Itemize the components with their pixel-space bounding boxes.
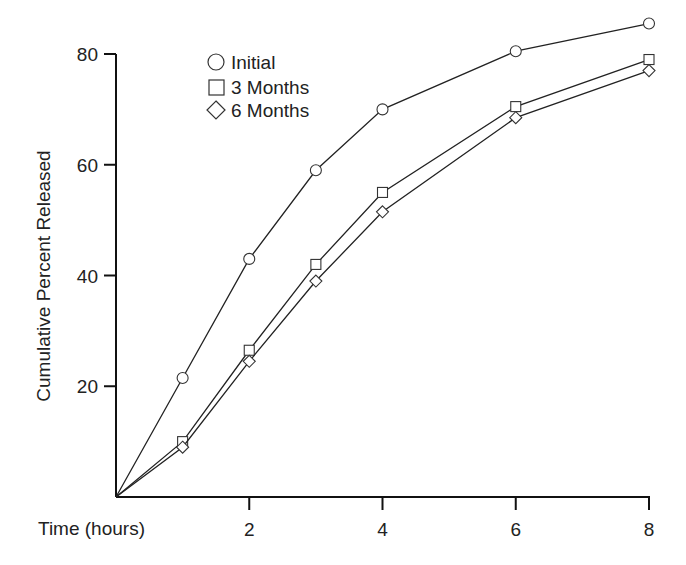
series-line: [116, 71, 649, 497]
x-axis-title: Time (hours): [38, 518, 145, 539]
legend-item-initial: Initial: [208, 52, 275, 73]
circle-marker-icon: [177, 372, 188, 383]
release-chart: 20406080 2468 Time (hours) Cumulative Pe…: [0, 0, 686, 565]
circle-marker-icon: [244, 253, 255, 264]
circle-marker-icon: [208, 54, 224, 70]
legend-label: Initial: [231, 52, 275, 73]
square-marker-icon: [511, 102, 521, 112]
diamond-marker-icon: [643, 65, 655, 77]
series-layer: [116, 18, 655, 497]
square-marker-icon: [244, 345, 254, 355]
y-ticks: 20406080: [77, 44, 116, 397]
diamond-marker-icon: [207, 101, 225, 119]
series-initial: [116, 18, 655, 497]
x-ticks: 2468: [244, 497, 654, 540]
circle-marker-icon: [644, 18, 655, 29]
legend-label: 6 Months: [231, 100, 309, 121]
circle-marker-icon: [310, 165, 321, 176]
y-tick-label: 60: [77, 155, 98, 176]
series-line: [116, 60, 649, 497]
y-tick-label: 40: [77, 266, 98, 287]
square-marker-icon: [209, 80, 224, 95]
x-tick-label: 4: [377, 519, 388, 540]
y-tick-label: 80: [77, 44, 98, 65]
circle-marker-icon: [377, 104, 388, 115]
axes: 20406080 2468 Time (hours) Cumulative Pe…: [33, 44, 654, 540]
legend-item-3-months: 3 Months: [209, 77, 309, 98]
series-3-months: [116, 55, 654, 497]
square-marker-icon: [644, 55, 654, 65]
series-6-months: [116, 65, 655, 497]
square-marker-icon: [311, 259, 321, 269]
x-tick-label: 8: [644, 519, 655, 540]
x-tick-label: 2: [244, 519, 255, 540]
circle-marker-icon: [510, 46, 521, 57]
diamond-marker-icon: [510, 112, 522, 124]
legend: Initial 3 Months 6 Months: [207, 52, 309, 121]
y-tick-label: 20: [77, 376, 98, 397]
series-line: [116, 24, 649, 497]
x-tick-label: 6: [510, 519, 521, 540]
legend-label: 3 Months: [231, 77, 309, 98]
y-axis-title: Cumulative Percent Released: [33, 150, 54, 401]
legend-item-6-months: 6 Months: [207, 100, 309, 121]
square-marker-icon: [378, 187, 388, 197]
